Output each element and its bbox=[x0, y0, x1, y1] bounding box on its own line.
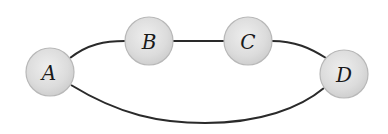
node-b-label: B bbox=[141, 30, 157, 54]
node-d: D bbox=[320, 50, 368, 98]
node-d-label: D bbox=[335, 63, 352, 87]
node-b: B bbox=[125, 17, 173, 65]
node-c: C bbox=[224, 17, 272, 65]
edge-c-d bbox=[272, 41, 326, 58]
edge-a-d bbox=[71, 85, 324, 123]
node-c-label: C bbox=[240, 30, 255, 54]
graph-diagram: A B C D bbox=[0, 0, 388, 134]
node-a-label: A bbox=[40, 61, 56, 85]
edge-a-b bbox=[70, 41, 125, 58]
node-a: A bbox=[26, 48, 74, 96]
